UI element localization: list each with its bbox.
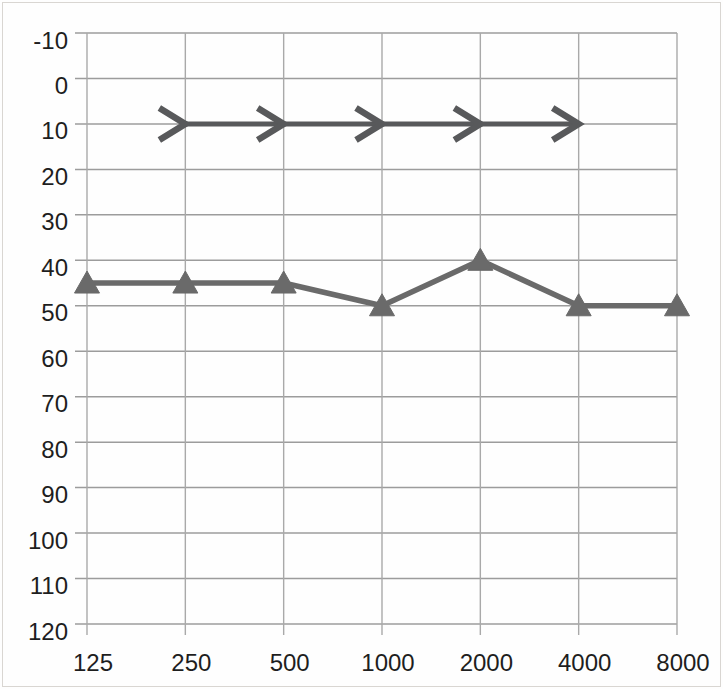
y-axis-tick-labels: -100102030405060708090100110120 [28, 27, 68, 645]
x-axis-tick-label: 250 [171, 649, 211, 676]
x-axis-tick-label: 8000 [656, 649, 709, 676]
audiogram-chart: -100102030405060708090100110120125250500… [0, 0, 723, 689]
x-axis-tick-label: 1000 [361, 649, 414, 676]
y-axis-tick-label: 20 [41, 163, 68, 190]
y-axis-tick-label: 60 [41, 345, 68, 372]
y-axis-tick-label: 100 [28, 527, 68, 554]
x-axis-tick-label: 125 [73, 649, 113, 676]
y-axis-tick-label: 70 [41, 390, 68, 417]
y-axis-tick-label: 30 [41, 208, 68, 235]
x-axis-tick-label: 500 [270, 649, 310, 676]
triangle-marker [468, 248, 493, 270]
y-axis-tick-label: 0 [55, 72, 68, 99]
scanned-audiogram-figure: -100102030405060708090100110120125250500… [0, 0, 723, 689]
y-axis-tick-label: -10 [33, 27, 68, 54]
y-axis-tick-label: 10 [41, 117, 68, 144]
series-bone-conduction-arrows [159, 108, 578, 140]
x-axis-tick-labels: 1252505001000200040008000 [73, 649, 710, 676]
y-axis-tick-label: 80 [41, 436, 68, 463]
x-axis-tick-label: 4000 [558, 649, 611, 676]
x-axis-tick-label: 2000 [460, 649, 513, 676]
chart-canvas: -100102030405060708090100110120125250500… [0, 0, 723, 689]
y-axis-tick-label: 110 [30, 572, 68, 599]
y-axis-tick-label: 120 [28, 618, 68, 645]
y-axis-tick-label: 40 [41, 254, 68, 281]
y-axis-tick-label: 90 [41, 481, 68, 508]
y-axis-tick-label: 50 [41, 299, 68, 326]
